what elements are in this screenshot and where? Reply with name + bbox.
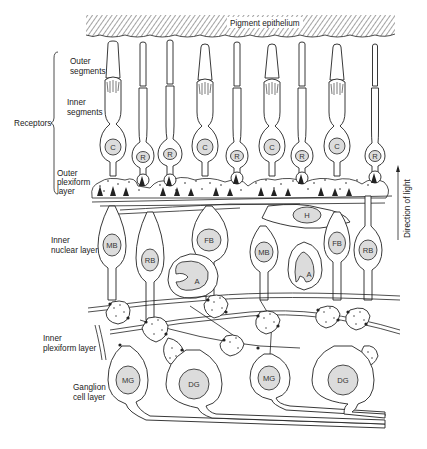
receptor-type-label: C [202, 143, 208, 152]
cell-label: MB [258, 248, 269, 257]
label-outer-segments-2: segments [70, 67, 106, 76]
rod-bipolar-cell: RB [354, 196, 382, 300]
label-outer-segments-1: Outer [70, 57, 91, 66]
cell-label: RB [363, 246, 374, 255]
label-inner-plexiform-2: plexiform layer [43, 344, 97, 353]
receptor-type-label: R [234, 152, 240, 161]
rod-receptor: R [291, 42, 313, 184]
label-inner-segments-2: segments [67, 108, 103, 117]
label-inner-plexiform-1: Inner [43, 334, 62, 343]
cell-label: FB [332, 239, 342, 248]
receptor-layer: C R R C [100, 40, 385, 186]
cell-label: H [304, 211, 309, 220]
cell-label: RB [145, 256, 156, 265]
amacrine-cell: A [288, 242, 322, 290]
cone-receptor: C [192, 44, 218, 176]
rod-receptor: R [132, 42, 154, 186]
direction-label: Direction of light [403, 179, 412, 238]
receptor-type-label: R [167, 150, 173, 159]
cell-label: FB [204, 236, 214, 245]
receptor-type-label: R [140, 153, 146, 162]
label-outer-plexiform-1: Outer [57, 169, 78, 178]
label-outer-plexiform-3: layer [57, 187, 75, 196]
midget-bipolar-cell: MB [98, 206, 126, 300]
receptor-type-label: R [299, 152, 305, 161]
cell-label: MG [263, 374, 275, 383]
rod-receptor: R [365, 44, 385, 183]
cone-receptor: C [259, 44, 285, 176]
label-ganglion-2: cell layer [73, 393, 106, 402]
direction-of-light: Direction of light [396, 165, 412, 240]
label-inner-nuclear-1: Inner [51, 236, 70, 245]
receptor-type-label: C [110, 143, 116, 152]
retina-diagram: Pigment epithelium Outer segments Inner … [0, 0, 427, 449]
amacrine-cell: A [168, 254, 218, 298]
receptor-type-label: C [334, 142, 340, 151]
label-outer-plexiform-2: plexiform [57, 178, 90, 187]
cell-label: DG [188, 380, 199, 389]
label-ganglion-1: Ganglion [73, 383, 106, 392]
flat-bipolar-cell: FB [324, 212, 350, 300]
label-inner-nuclear-2: nuclear layer [51, 246, 98, 255]
outer-plexiform-layer [92, 177, 392, 214]
rod-receptor: R [226, 42, 248, 184]
label-inner-segments-1: Inner [67, 98, 86, 107]
midget-bipolar-cell: MB [250, 226, 278, 300]
arrow-up-icon [396, 165, 400, 172]
layer-labels: Outer segments Inner segments Receptors … [14, 52, 106, 402]
pigment-epithelium-label: Pigment epithelium [230, 19, 300, 28]
inner-nuclear-layer: H MB RB FB A MB [98, 196, 382, 320]
cell-label: MB [106, 241, 117, 250]
cell-label: MG [122, 376, 134, 385]
label-receptors: Receptors [14, 119, 51, 128]
cell-label: DG [337, 376, 348, 385]
cone-receptor: C [100, 41, 126, 176]
cone-receptor: C [324, 44, 350, 176]
receptor-type-label: R [372, 152, 378, 161]
rod-receptor: R [158, 40, 182, 186]
receptor-type-label: C [269, 143, 275, 152]
pigment-epithelium: Pigment epithelium [86, 15, 395, 37]
ganglion-cell-layer: MG DG MG DG [108, 346, 385, 428]
synaptic-terminals [97, 186, 352, 196]
